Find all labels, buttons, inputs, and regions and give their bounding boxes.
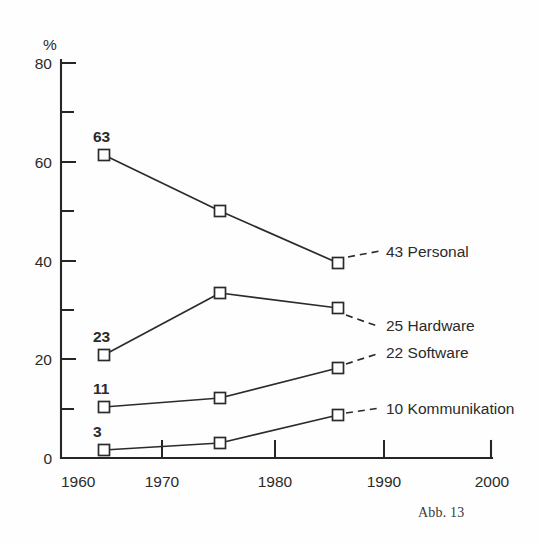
series-personal-marker-2 [215, 206, 226, 217]
series-kommunikation-marker-2 [215, 438, 226, 449]
series-software-marker-1 [99, 402, 110, 413]
series-software-start-label: 11 [93, 380, 110, 397]
series-kommunikation-marker-3 [333, 410, 344, 421]
series-personal-start-label: 63 [93, 128, 111, 145]
series-hardware-start-label: 23 [93, 328, 111, 345]
series-software-end-label: 22 Software [386, 344, 469, 361]
x-tick-label-1980: 1980 [258, 473, 293, 490]
figure-caption: Abb. 13 [418, 505, 465, 521]
series-software-marker-2 [215, 393, 226, 404]
y-tick-label-40: 40 [35, 253, 53, 270]
series-hardware-marker-1 [99, 350, 110, 361]
x-tick-label-1960: 1960 [61, 473, 96, 490]
y-tick-label-0: 0 [43, 450, 52, 467]
y-axis-unit-label: % [43, 36, 57, 53]
series-hardware-projection [346, 315, 380, 327]
series-kommunikation-projection [346, 408, 380, 413]
series-software-projection [346, 353, 380, 364]
series-kommunikation: 3 10 Kommunikation [93, 400, 514, 456]
x-tick-label-1990: 1990 [367, 473, 402, 490]
series-hardware-line [104, 293, 338, 355]
series-hardware-marker-2 [215, 288, 226, 299]
series-personal-marker-1 [99, 150, 110, 161]
line-chart: 80 60 40 20 0 % 1960 1970 1980 1990 2000… [0, 0, 539, 543]
series-hardware-marker-3 [333, 303, 344, 314]
series-personal-marker-3 [333, 258, 344, 269]
series-personal-projection [348, 251, 380, 257]
series-personal: 63 43 Personal [93, 128, 469, 269]
y-tick-label-80: 80 [35, 55, 53, 72]
x-tick-label-1970: 1970 [145, 473, 180, 490]
series-personal-end-label: 43 Personal [386, 243, 469, 260]
series-hardware-end-label: 25 Hardware [386, 317, 475, 334]
series-kommunikation-marker-1 [99, 445, 110, 456]
y-axis-ticks [61, 63, 76, 409]
y-tick-label-20: 20 [35, 351, 53, 368]
series-software-marker-3 [333, 363, 344, 374]
series-kommunikation-end-label: 10 Kommunikation [386, 400, 514, 417]
y-tick-label-60: 60 [35, 154, 53, 171]
figure-container: 80 60 40 20 0 % 1960 1970 1980 1990 2000… [0, 0, 539, 543]
x-tick-label-2000: 2000 [475, 473, 510, 490]
series-kommunikation-start-label: 3 [93, 423, 102, 440]
x-axis-ticks [162, 440, 384, 458]
